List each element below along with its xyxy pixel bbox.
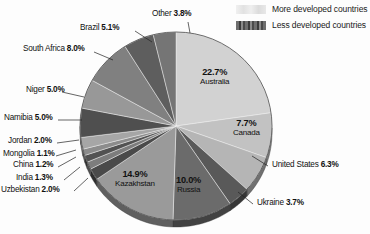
- label-india: India 1.3%: [16, 174, 53, 183]
- pie-chart-figure: More developed countries Less developed …: [0, 0, 370, 234]
- label-mongolia: Mongolia 1.1%: [3, 150, 55, 159]
- label-other: Other 3.8%: [152, 10, 191, 19]
- legend-label-more-developed: More developed countries: [272, 4, 367, 14]
- label-ukraine: Ukraine 3.7%: [257, 199, 304, 208]
- label-uzbekistan: Uzbekistan 2.0%: [1, 186, 59, 195]
- label-niger: Niger 5.0%: [26, 86, 65, 95]
- legend-item-less-developed: Less developed countries: [236, 18, 370, 32]
- label-russia: 10.0% Russia: [176, 176, 201, 194]
- legend-label-less-developed: Less developed countries: [272, 20, 366, 30]
- label-south-africa: South Africa 8.0%: [23, 45, 85, 54]
- legend-swatch-more-developed: [236, 5, 266, 14]
- chart-legend: More developed countries Less developed …: [236, 2, 370, 34]
- pie-chart-svg: [0, 0, 370, 234]
- label-namibia: Namibia 5.0%: [4, 114, 53, 123]
- label-united-states: United States 6.3%: [272, 161, 339, 170]
- label-kazakhstan: 14.9% Kazakhstan: [115, 170, 155, 188]
- label-jordan: Jordan 2.0%: [8, 137, 52, 146]
- label-canada: 7.7% Canada: [233, 119, 260, 137]
- label-brazil: Brazil 5.1%: [80, 24, 119, 33]
- label-china: China 1.2%: [13, 161, 53, 170]
- label-australia: 22.7% Australia: [200, 68, 229, 86]
- legend-item-more-developed: More developed countries: [236, 2, 370, 16]
- legend-swatch-less-developed: [236, 21, 266, 30]
